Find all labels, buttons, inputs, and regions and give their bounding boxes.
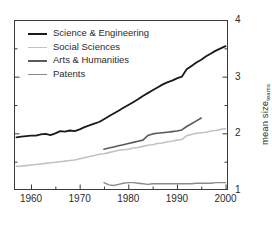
y-axis-title: mean sizeteams	[256, 0, 272, 229]
legend-swatch	[28, 33, 47, 35]
chart-svg	[14, 20, 228, 190]
legend-swatch	[28, 74, 47, 75]
x-tick-label: 1980	[115, 193, 141, 204]
y-axis-title-subscript: teams	[265, 84, 271, 101]
chart-figure: mean sizeteams 19601970198019902000 1234…	[0, 0, 272, 229]
series-line-3	[104, 183, 226, 186]
legend-swatch	[28, 47, 47, 49]
legend-swatch	[28, 60, 47, 62]
y-tick-label: 2	[235, 127, 241, 138]
legend-label: Patents	[53, 68, 85, 79]
legend-label: Social Sciences	[53, 41, 120, 52]
y-tick-label: 4	[235, 14, 241, 25]
legend-label: Arts & Humanities	[53, 54, 129, 65]
y-axis-title-text: mean size	[259, 101, 270, 145]
x-tick-label: 1990	[164, 193, 190, 204]
legend-label: Science & Engineering	[53, 27, 149, 38]
x-tick-label: 1960	[18, 193, 44, 204]
y-tick-label: 1	[235, 184, 241, 195]
x-tick-label: 1970	[67, 193, 93, 204]
y-tick-label: 3	[235, 71, 241, 82]
plot-area	[14, 20, 228, 190]
